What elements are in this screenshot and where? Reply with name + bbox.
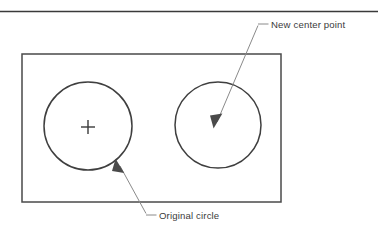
new-center-point-label: New center point	[271, 19, 346, 30]
original-circle-leader-line	[120, 166, 146, 214]
original-circle-label: Original circle	[159, 210, 219, 221]
moved-circle	[175, 82, 261, 168]
new-center-point-annotation: New center point	[210, 19, 346, 129]
new-center-point-arrowhead-icon	[210, 114, 222, 129]
figure-container: New center point Original circle	[0, 0, 378, 237]
original-circle-center-plus-icon	[81, 120, 95, 134]
drawing-boundary-rectangle	[22, 54, 281, 202]
diagram-canvas: New center point Original circle	[0, 0, 378, 237]
original-circle-annotation: Original circle	[112, 159, 219, 221]
new-center-point-leader-line	[217, 26, 258, 123]
